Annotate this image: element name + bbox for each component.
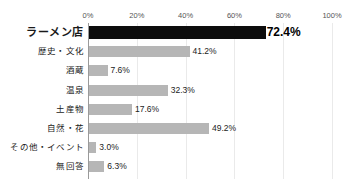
category-label: その他・イベント xyxy=(0,138,84,157)
x-axis-tick-label: 20% xyxy=(129,11,144,21)
chart-title xyxy=(0,0,344,2)
bar-row: 自然・花49.2% xyxy=(0,119,344,138)
bar-value-label: 49.2% xyxy=(212,119,236,138)
bar-rows: ラーメン店72.4%歴史・文化41.2%酒蔵7.6%温泉32.3%土産物17.6… xyxy=(0,23,344,179)
bar-row: 酒蔵7.6% xyxy=(0,61,344,80)
category-label: 歴史・文化 xyxy=(0,42,84,61)
bar-row: 温泉32.3% xyxy=(0,81,344,100)
category-label: 無回答 xyxy=(0,157,84,176)
category-label: ラーメン店 xyxy=(0,23,84,42)
bar-chart: 0%20%40%60%80%100% ラーメン店72.4%歴史・文化41.2%酒… xyxy=(0,0,344,182)
category-label: 温泉 xyxy=(0,81,84,100)
x-axis-tick-label: 60% xyxy=(227,11,242,21)
bar-value-label: 3.0% xyxy=(99,138,118,157)
bar-row: 歴史・文化41.2% xyxy=(0,42,344,61)
bar-value-label: 7.6% xyxy=(111,61,130,80)
bar-value-label: 6.3% xyxy=(107,157,126,176)
bar-row: その他・イベント3.0% xyxy=(0,138,344,157)
x-axis-tick-label: 0% xyxy=(83,11,94,21)
bar xyxy=(89,123,209,134)
category-label: 土産物 xyxy=(0,100,84,119)
x-axis-tick-label: 100% xyxy=(322,11,341,21)
bar xyxy=(89,85,168,96)
bar xyxy=(89,104,132,115)
bar-value-label: 41.2% xyxy=(193,42,217,61)
category-label: 自然・花 xyxy=(0,119,84,138)
bar xyxy=(89,161,104,172)
bar-value-label: 32.3% xyxy=(171,81,195,100)
bar-row: 無回答6.3% xyxy=(0,157,344,176)
bar-row: 土産物17.6% xyxy=(0,100,344,119)
bar-value-label: 17.6% xyxy=(135,100,159,119)
bar-row: ラーメン店72.4% xyxy=(0,23,344,42)
category-label: 酒蔵 xyxy=(0,61,84,80)
x-axis-tick-label: 80% xyxy=(276,11,291,21)
bar-value-label: 72.4% xyxy=(267,23,301,42)
bar xyxy=(89,26,266,39)
x-axis-tick-labels: 0%20%40%60%80%100% xyxy=(0,11,344,21)
bar xyxy=(89,65,108,76)
bar xyxy=(89,142,96,153)
bar xyxy=(89,46,190,57)
x-axis-tick-label: 40% xyxy=(178,11,193,21)
